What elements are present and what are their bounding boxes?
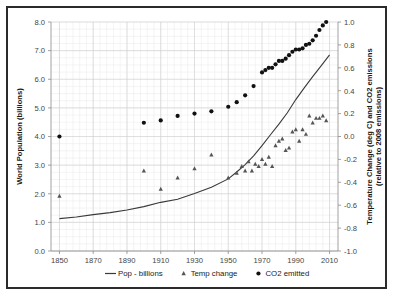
data-series-layer (57, 20, 329, 219)
x-axis-tick-labels: 185018701890191019301950197019902010 (51, 256, 338, 265)
co2-marker (159, 118, 163, 122)
temp-marker (260, 157, 264, 161)
population-co2-temperature-chart: 185018701890191019301950197019902010 0.0… (8, 8, 385, 287)
temp-marker (142, 169, 146, 173)
temp-marker (287, 146, 291, 150)
co2-marker (176, 114, 180, 118)
x-tick-label: 2010 (321, 256, 338, 265)
temp-marker (257, 164, 261, 168)
temp-marker (290, 130, 294, 134)
temp-marker (304, 132, 308, 136)
chart-legend: Pop - billionsTemp changeCO2 emitted (105, 269, 309, 278)
y-tick-label: 1.0 (34, 218, 45, 227)
x-tick-label: 1870 (85, 256, 102, 265)
co2-marker (307, 42, 311, 46)
y-tick-label: 0.0 (34, 247, 45, 256)
y2-tick-label: -0.4 (344, 178, 357, 187)
y-tick-label: 2.0 (34, 190, 45, 199)
temp-marker (263, 162, 267, 166)
y2-tick-label: -0.6 (344, 201, 357, 210)
temp-marker (270, 164, 274, 168)
series-temp-change (57, 114, 328, 198)
x-tick-label: 1850 (51, 256, 68, 265)
temp-marker (277, 139, 281, 143)
temp-marker (317, 116, 321, 120)
temp-marker (280, 136, 284, 140)
secondary-y-axis-tick-labels: -1.0-0.8-0.6-0.4-0.20.00.20.40.60.81.0 (344, 18, 357, 256)
right-axis-title-line2: (relative to 2008 emissions) (374, 86, 383, 186)
temp-marker (243, 169, 247, 173)
co2-marker (226, 105, 230, 109)
y2-tick-label: -1.0 (344, 247, 357, 256)
co2-marker (270, 66, 274, 70)
co2-marker (314, 34, 318, 38)
y2-tick-label: 0.0 (344, 132, 355, 141)
chart-figure: 185018701890191019301950197019902010 0.0… (6, 6, 387, 289)
legend-circle-swatch (256, 271, 260, 275)
temp-marker (253, 162, 257, 166)
y-tick-label: 6.0 (34, 75, 45, 84)
co2-marker (243, 93, 247, 97)
y-tick-label: 7.0 (34, 46, 45, 55)
left-axis-title: World Population (billions) (15, 88, 24, 185)
y-tick-label: 5.0 (34, 104, 45, 113)
temp-marker (297, 139, 301, 143)
x-tick-label: 1970 (254, 256, 271, 265)
co2-marker (57, 134, 61, 138)
y2-tick-label: 0.4 (344, 87, 355, 96)
co2-marker (273, 62, 277, 66)
legend-label: CO2 emitted (265, 269, 309, 278)
temp-marker (314, 116, 318, 120)
co2-marker (209, 109, 213, 113)
temp-marker (250, 169, 254, 173)
co2-marker (192, 112, 196, 116)
co2-marker (284, 57, 288, 61)
y-axis-tick-labels: 0.01.02.03.04.05.06.07.08.0 (34, 18, 45, 256)
legend-label: Pop - billions (118, 269, 163, 278)
co2-marker (311, 38, 315, 42)
co2-marker (251, 84, 255, 88)
legend-triangle-swatch (181, 271, 185, 275)
temp-marker (159, 187, 163, 191)
temp-marker (321, 114, 325, 118)
y2-tick-label: 1.0 (344, 18, 355, 27)
co2-marker (321, 23, 325, 27)
co2-marker (235, 100, 239, 104)
legend-item-pop-billions: Pop - billions (105, 269, 163, 278)
y2-tick-label: 0.8 (344, 41, 355, 50)
y2-tick-label: 0.6 (344, 64, 355, 73)
y-tick-label: 3.0 (34, 161, 45, 170)
major-gridlines (51, 22, 338, 251)
co2-marker (287, 53, 291, 57)
x-tick-label: 1930 (186, 256, 203, 265)
co2-marker (142, 121, 146, 125)
x-tick-label: 1910 (152, 256, 169, 265)
y-tick-label: 4.0 (34, 132, 45, 141)
temp-marker (324, 118, 328, 122)
temp-marker (307, 114, 311, 118)
temp-marker (57, 194, 61, 198)
y2-tick-label: -0.8 (344, 224, 357, 233)
x-tick-label: 1890 (119, 256, 136, 265)
y-tick-label: 8.0 (34, 18, 45, 27)
temp-marker (273, 143, 277, 147)
y2-tick-label: -0.2 (344, 155, 357, 164)
legend-label: Temp change (191, 269, 238, 278)
temp-marker (311, 120, 315, 124)
temp-marker (267, 155, 271, 159)
chart-stage: 185018701890191019301950197019902010 0.0… (8, 8, 385, 287)
x-tick-label: 1950 (220, 256, 237, 265)
temp-marker (176, 175, 180, 179)
legend-item-co2-emitted: CO2 emitted (256, 269, 309, 278)
co2-marker (324, 20, 328, 24)
co2-marker (317, 28, 321, 32)
x-tick-label: 1990 (287, 256, 304, 265)
co2-marker (300, 46, 304, 50)
temp-marker (209, 153, 213, 157)
right-axis-title: Temperature Change (deg C) and CO2 emiss… (365, 48, 383, 224)
temp-marker (192, 166, 196, 170)
temp-marker (284, 148, 288, 152)
legend-item-temp-change: Temp change (181, 269, 237, 278)
right-axis-title-line1: Temperature Change (deg C) and CO2 emiss… (365, 48, 374, 224)
y2-tick-label: 0.2 (344, 109, 355, 118)
